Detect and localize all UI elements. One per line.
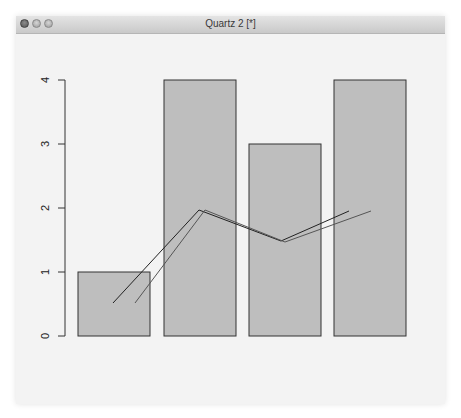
bars bbox=[78, 80, 406, 336]
bar bbox=[78, 272, 150, 336]
bar bbox=[164, 80, 236, 336]
footer-strip bbox=[16, 408, 216, 414]
y-tick-label: 1 bbox=[39, 269, 51, 275]
bar bbox=[249, 144, 321, 336]
y-tick-label: 4 bbox=[39, 77, 51, 83]
y-tick-label: 2 bbox=[39, 205, 51, 211]
bar bbox=[334, 80, 406, 336]
y-tick-label: 3 bbox=[39, 141, 51, 147]
y-tick-label: 0 bbox=[39, 333, 51, 339]
overlay-lines bbox=[113, 210, 371, 303]
bar-chart: 01234 bbox=[0, 0, 461, 418]
y-axis: 01234 bbox=[39, 77, 65, 339]
